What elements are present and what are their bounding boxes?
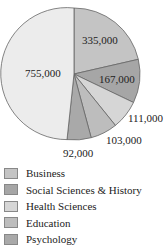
label-health-sciences: 111,000 <box>128 112 163 124</box>
legend-label: Education <box>26 217 71 229</box>
legend-swatch <box>4 201 18 212</box>
legend-label: Business <box>26 167 65 179</box>
label-social-sciences: 167,000 <box>99 73 135 85</box>
legend-item-education: Education <box>4 215 142 232</box>
legend-label: Health Sciences <box>26 200 97 212</box>
legend-swatch <box>4 168 18 179</box>
legend-item-psychology: Psychology <box>4 231 142 248</box>
legend-swatch <box>4 184 18 195</box>
legend-item-business: Business <box>4 165 142 182</box>
legend: Business Social Sciences & History Healt… <box>4 165 142 248</box>
label-psychology: 92,000 <box>63 147 93 159</box>
label-other: 755,000 <box>25 67 61 79</box>
legend-swatch <box>4 234 18 245</box>
legend-label: Psychology <box>26 233 77 245</box>
legend-swatch <box>4 217 18 228</box>
legend-label: Social Sciences & History <box>26 184 142 196</box>
label-business: 335,000 <box>82 34 118 46</box>
legend-item-health-sciences: Health Sciences <box>4 198 142 215</box>
legend-item-social-sciences: Social Sciences & History <box>4 182 142 199</box>
label-education: 103,000 <box>106 134 142 146</box>
